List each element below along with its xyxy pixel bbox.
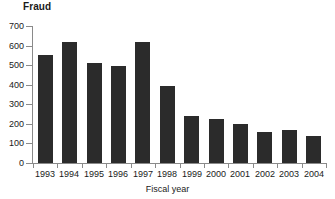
y-axis-tick [26,26,33,27]
y-axis-tick [26,163,33,164]
x-axis-tick-label: 2004 [302,170,326,179]
y-axis-tick [26,104,33,105]
x-axis-tick [82,163,83,168]
x-axis-tick [204,163,205,168]
y-axis-tick-label: 500 [9,61,24,70]
bar [38,55,53,163]
chart-title: Fraud [23,1,51,12]
bar [62,42,77,163]
x-axis-tick-label: 1998 [155,170,179,179]
bar [111,66,126,163]
x-axis-title: Fiscal year [0,184,335,194]
x-axis-tick [57,163,58,168]
x-axis-tick [228,163,229,168]
x-axis-tick-label: 2001 [228,170,252,179]
x-axis-tick [33,163,34,168]
y-axis-tick-label: 400 [9,81,24,90]
bar [209,119,224,163]
x-axis-tick-label: 2003 [277,170,301,179]
x-axis-tick [106,163,107,168]
x-axis-tick-label: 1995 [82,170,106,179]
x-axis-tick [302,163,303,168]
bar [135,42,150,163]
x-axis-tick-label: 1996 [106,170,130,179]
bar [282,130,297,163]
y-axis-tick [26,46,33,47]
y-axis-tick-label: 100 [9,139,24,148]
x-axis-tick-label: 1997 [131,170,155,179]
x-axis-tick [253,163,254,168]
y-axis-tick [26,143,33,144]
y-axis-tick-label: 0 [19,159,24,168]
y-axis-tick-label: 300 [9,100,24,109]
x-axis-tick-label: 1999 [180,170,204,179]
x-axis-tick-label: 2002 [253,170,277,179]
y-axis-tick-label: 700 [9,22,24,31]
x-axis-tick [277,163,278,168]
x-axis-tick [180,163,181,168]
x-axis-tick-label: 1994 [57,170,81,179]
bar [160,86,175,163]
fraud-bar-chart: Fraud 0100200300400500600700 19931994199… [0,0,335,199]
bar [87,63,102,163]
y-axis-tick [26,124,33,125]
y-axis-tick [26,85,33,86]
bar [257,132,272,163]
bar [184,116,199,163]
x-axis-tick [155,163,156,168]
x-axis-tick [131,163,132,168]
y-axis-tick-label: 600 [9,42,24,51]
y-axis-tick [26,65,33,66]
y-axis-tick-label: 200 [9,120,24,129]
bar [306,136,321,163]
x-axis-line [26,163,326,164]
x-axis-tick-label: 2000 [204,170,228,179]
bar [233,124,248,163]
x-axis-tick [326,163,327,168]
x-axis-tick-label: 1993 [33,170,57,179]
